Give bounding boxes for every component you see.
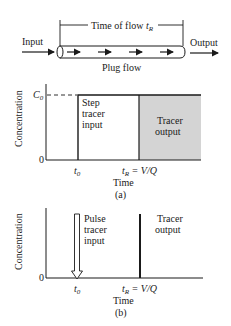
tracer-output-label-line2: output bbox=[155, 126, 181, 137]
time-of-flow-bracket: Time of flow tR bbox=[60, 20, 183, 47]
pipe bbox=[57, 46, 185, 58]
pulse-input-label-line3: input bbox=[84, 235, 105, 246]
tracer-output-label-line1: Tracer bbox=[157, 115, 183, 126]
tracer-output-label-line2: output bbox=[155, 224, 181, 235]
pulse-input-label-line2: tracer bbox=[84, 224, 107, 235]
chart-b-caption: (b) bbox=[115, 307, 127, 319]
step-input-label-line1: Step bbox=[82, 97, 100, 108]
input-label: Input bbox=[22, 36, 43, 47]
tracer-output-label-line1: Tracer bbox=[157, 213, 183, 224]
time-of-flow-label: Time of flow tR bbox=[91, 20, 154, 33]
step-input-label-line3: input bbox=[82, 119, 103, 130]
t0-tick-label: t0 bbox=[74, 165, 81, 178]
x-axis-label: Time bbox=[113, 295, 134, 306]
step-input-label-line2: tracer bbox=[82, 108, 105, 119]
chart-b-pulse-input: 0 Concentration Pulse tracer input Trace… bbox=[13, 208, 203, 319]
zero-label: 0 bbox=[39, 272, 44, 283]
y-axis-label: Concentration bbox=[13, 90, 24, 147]
output-label: Output bbox=[190, 37, 218, 48]
chart-a-step-input: C0 0 Concentration Step tracer input Tra… bbox=[13, 84, 201, 201]
plug-flow-pipe-diagram: Time of flow tR Input Plug flow Output bbox=[22, 20, 218, 74]
t0-tick-label: t0 bbox=[74, 283, 81, 296]
pulse-input-arrow-icon bbox=[72, 214, 83, 279]
chart-a-caption: (a) bbox=[115, 189, 126, 201]
plug-flow-label: Plug flow bbox=[102, 62, 142, 73]
c0-label: C0 bbox=[33, 89, 44, 102]
y-axis-label: Concentration bbox=[13, 213, 24, 270]
x-axis-label: Time bbox=[113, 177, 134, 188]
zero-label: 0 bbox=[39, 154, 44, 165]
pulse-input-label-line1: Pulse bbox=[84, 213, 106, 224]
plug-flow-figure: Time of flow tR Input Plug flow Output C… bbox=[0, 0, 231, 326]
